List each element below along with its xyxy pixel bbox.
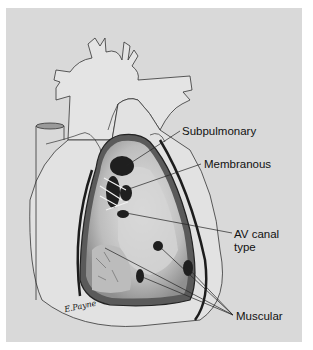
label-muscular: Muscular xyxy=(236,310,283,323)
label-subpulmonary: Subpulmonary xyxy=(182,125,256,138)
label-av-canal-type: type xyxy=(234,241,256,254)
heart-illustration xyxy=(0,0,313,350)
label-av-canal: AV canal xyxy=(234,228,279,241)
label-membranous: Membranous xyxy=(204,158,271,171)
